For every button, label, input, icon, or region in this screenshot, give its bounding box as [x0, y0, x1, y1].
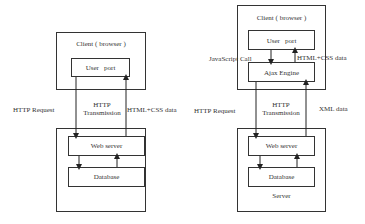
connector-arrows — [0, 0, 365, 224]
